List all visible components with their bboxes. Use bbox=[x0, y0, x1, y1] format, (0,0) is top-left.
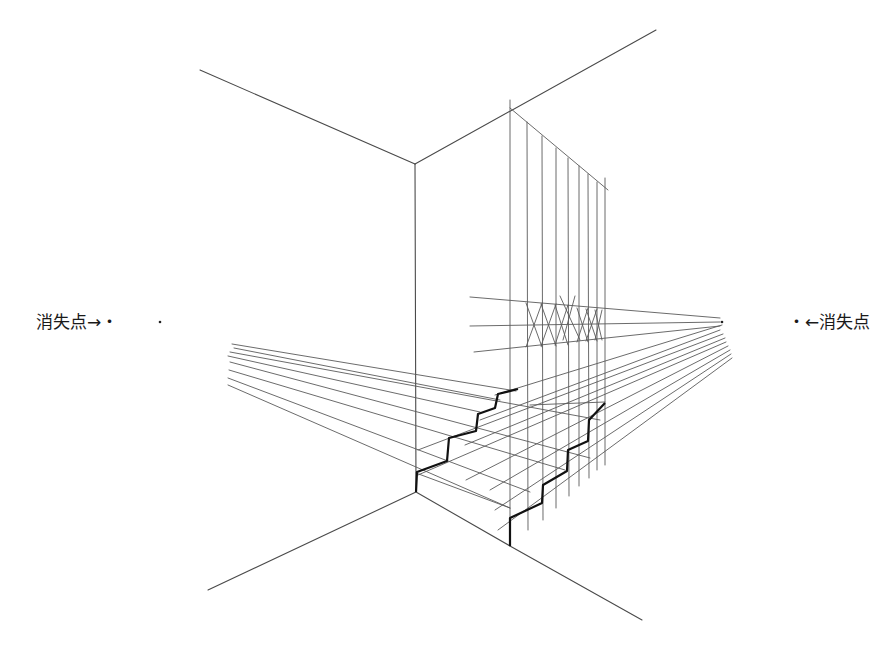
staircase-perspective-diagram bbox=[0, 0, 891, 645]
right-vanishing-point-label: ・←消失点 bbox=[788, 314, 870, 331]
perspective-drawing: 消失点→・ ・←消失点 bbox=[0, 0, 891, 645]
stair-profiles bbox=[416, 389, 605, 546]
wall-grid bbox=[510, 100, 608, 546]
left-vanishing-point-label: 消失点→・ bbox=[36, 314, 118, 331]
right-vanishing-point-dot bbox=[721, 321, 724, 324]
room-edges bbox=[200, 30, 656, 620]
right-stair-profile bbox=[510, 403, 605, 546]
left-vanishing-point-dot bbox=[159, 321, 162, 324]
right-vanishing-lines bbox=[418, 325, 732, 530]
